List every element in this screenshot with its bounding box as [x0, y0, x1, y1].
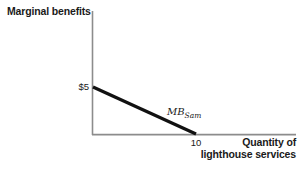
marginal-benefits-chart: Marginal benefits $5 10 MBSam Quantity o… [0, 0, 300, 170]
curve-label-subscript: Sam [185, 111, 202, 120]
x-axis-title: Quantity oflighthouse services [201, 137, 296, 161]
y-axis-tick-label-5: $5 [70, 82, 89, 93]
curve-label-mb-sam: MBSam [167, 106, 201, 117]
x-axis-title-line-1: Quantity of [201, 137, 296, 149]
curve-label-main: MB [167, 106, 185, 117]
y-axis-title: Marginal benefits [7, 6, 91, 18]
x-axis-title-line-2: lighthouse services [201, 149, 296, 161]
